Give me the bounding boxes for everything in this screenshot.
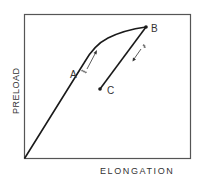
point-c-marker [98, 87, 102, 91]
y-axis-label: PRELOAD [11, 67, 21, 114]
loading-arrow-icon [81, 50, 97, 73]
unloading-arrow-icon [133, 44, 147, 62]
x-axis-label: ELONGATION [100, 166, 174, 176]
unloading-line [100, 27, 146, 89]
point-b-marker [144, 25, 148, 29]
point-c-label: C [107, 85, 114, 96]
point-a-label: A [70, 69, 77, 80]
point-b-label: B [151, 23, 158, 34]
diagram-canvas: A B C PRELOAD ELONGATION [0, 0, 201, 183]
loading-curve [25, 27, 147, 159]
